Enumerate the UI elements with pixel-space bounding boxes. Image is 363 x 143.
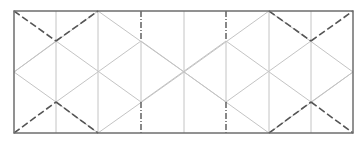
valley-fold-line: [311, 102, 353, 133]
valley-fold-line: [311, 11, 353, 41]
diagonal-crease-line: [14, 72, 56, 102]
crease-pattern-diagram: [0, 0, 363, 143]
valley-fold-line: [56, 11, 98, 41]
diagonal-crease-line: [311, 72, 353, 102]
diagonal-crease-line: [14, 41, 56, 72]
valley-fold-line: [14, 11, 56, 41]
light-crease-lines: [14, 11, 353, 133]
valley-fold-line: [14, 102, 56, 133]
